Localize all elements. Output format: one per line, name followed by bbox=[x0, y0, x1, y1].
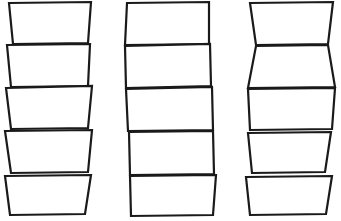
left-box-3 bbox=[6, 86, 92, 129]
right-box-2 bbox=[248, 45, 335, 88]
right-stack bbox=[246, 2, 335, 215]
left-box-4 bbox=[5, 130, 92, 173]
figure-root bbox=[0, 0, 341, 221]
middle-box-4 bbox=[129, 131, 214, 175]
middle-box-2 bbox=[125, 44, 211, 88]
stacks-group bbox=[5, 2, 335, 216]
right-box-5 bbox=[246, 176, 332, 215]
right-box-1 bbox=[250, 2, 333, 45]
middle-stack bbox=[125, 2, 216, 216]
left-box-2 bbox=[7, 44, 90, 87]
left-box-1 bbox=[9, 2, 91, 44]
middle-box-5 bbox=[130, 175, 216, 216]
stacked-boxes-diagram bbox=[0, 0, 341, 221]
middle-box-3 bbox=[126, 87, 213, 131]
left-stack bbox=[5, 2, 92, 215]
middle-box-1 bbox=[125, 2, 209, 45]
right-box-3 bbox=[248, 88, 335, 130]
right-box-4 bbox=[248, 132, 331, 173]
left-box-5 bbox=[5, 175, 91, 215]
